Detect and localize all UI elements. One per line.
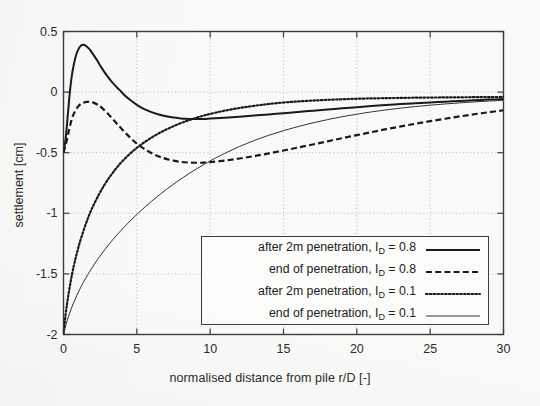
x-axis-title: normalised distance from pile r/D [-] [0, 371, 540, 385]
legend-item: end of penetration, ID = 0.8 [202, 259, 488, 281]
x-tick-label: 5 [133, 342, 140, 356]
legend-subscript: D [378, 290, 385, 300]
legend-line-sample [424, 264, 482, 276]
legend-label: after 2m penetration, ID = 0.1 [258, 284, 416, 300]
y-axis-title-container: settlement [cm] [10, 90, 28, 280]
y-axis-title: settlement [cm] [12, 143, 26, 228]
x-tick-label: 25 [423, 342, 437, 356]
legend-label: after 2m penetration, ID = 0.8 [258, 240, 416, 256]
legend-item: after 2m penetration, ID = 0.8 [202, 237, 488, 259]
legend-item: after 2m penetration, ID = 0.1 [202, 281, 488, 303]
legend-line-sample [424, 308, 482, 320]
legend-line-sample [424, 286, 482, 298]
x-tick-label: 15 [277, 342, 291, 356]
x-tick-label: 0 [60, 342, 67, 356]
x-tick-label: 10 [203, 342, 217, 356]
legend-line-sample [424, 242, 482, 254]
legend-item: end of penetration, ID = 0.1 [202, 303, 488, 325]
legend-label: end of penetration, ID = 0.1 [269, 306, 416, 322]
legend-subscript: D [378, 312, 385, 322]
plot-canvas [0, 0, 540, 406]
legend-subscript: D [378, 246, 385, 256]
chart-figure: 051015202530-2-1.5-1-0.500.5 settlement … [0, 0, 540, 406]
y-tick-label: -2 [14, 328, 58, 342]
legend-subscript: D [378, 268, 385, 278]
legend-label: end of penetration, ID = 0.8 [269, 262, 416, 278]
x-tick-label: 30 [497, 342, 511, 356]
x-tick-label: 20 [350, 342, 364, 356]
chart-legend: after 2m penetration, ID = 0.8end of pen… [201, 236, 489, 325]
y-tick-label: 0.5 [14, 25, 58, 39]
